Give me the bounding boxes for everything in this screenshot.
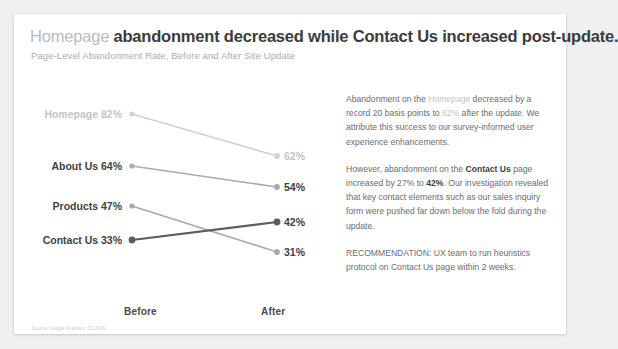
series-value-homepage-after: 62% <box>284 150 305 162</box>
slope-line-contact-us <box>132 222 277 240</box>
narrative-p1-highlight-62: 62% <box>442 108 459 118</box>
slope-point-products-after <box>274 249 280 255</box>
narrative-paragraph-1: Abandonment on the Homepage decreased by… <box>346 92 552 149</box>
axis-label-after: After <box>261 306 285 317</box>
slope-line-homepage <box>132 114 277 156</box>
series-label-contact-us-before: Contact Us 33% <box>43 234 122 246</box>
series-label-homepage-before: Homepage 82% <box>44 108 122 120</box>
page-title: Homepage abandonment decreased while Con… <box>30 27 554 46</box>
narrative-p2-highlight-42: 42% <box>426 178 443 188</box>
slope-line-products <box>132 206 277 252</box>
series-label-products-before: Products 47% <box>53 200 122 212</box>
slope-line-about-us <box>132 166 277 187</box>
axis-label-before: Before <box>124 306 157 317</box>
narrative-paragraph-2: However, abandonment on the Contact Us p… <box>346 162 552 233</box>
page-subtitle: Page-Level Abandonment Rate, Before and … <box>31 50 295 61</box>
infographic-card: Homepage abandonment decreased while Con… <box>14 14 566 334</box>
slope-point-about-us-after <box>274 184 280 190</box>
narrative-p1-highlight-homepage: Homepage <box>428 94 470 104</box>
slope-point-products-before <box>129 203 134 208</box>
headline-highlight-homepage: Homepage <box>30 27 109 45</box>
source-note: Source: Google Analytics, Q3 2024. <box>32 326 106 331</box>
series-value-contact-us-after: 42% <box>284 216 305 228</box>
slope-chart: Homepage 82% About Us 64% Products 47% C… <box>14 72 334 334</box>
slope-point-contact-us-before <box>129 237 136 244</box>
slope-point-about-us-before <box>129 163 134 168</box>
series-label-about-us-before: About Us 64% <box>51 160 122 172</box>
slope-point-homepage-after <box>274 153 280 159</box>
narrative-p2-part-a: However, abandonment on the <box>346 164 465 174</box>
series-value-about-us-after: 54% <box>284 181 305 193</box>
narrative-p2-highlight-contact-us: Contact Us <box>465 164 510 174</box>
slope-point-homepage-before <box>129 111 134 116</box>
narrative-p1-part-a: Abandonment on the <box>346 94 428 104</box>
headline-main-text: abandonment decreased while Contact Us i… <box>114 27 618 45</box>
narrative-recommendation: RECOMMENDATION: UX team to run heuristic… <box>346 246 552 274</box>
series-value-products-after: 31% <box>284 246 305 258</box>
slope-point-contact-us-after <box>274 219 281 226</box>
narrative-panel: Abandonment on the Homepage decreased by… <box>346 92 552 274</box>
